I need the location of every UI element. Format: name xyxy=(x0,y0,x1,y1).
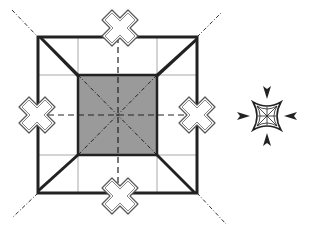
origami-diagram xyxy=(0,0,321,237)
result-symbol-icon xyxy=(237,86,297,146)
diagram-canvas xyxy=(0,0,321,237)
